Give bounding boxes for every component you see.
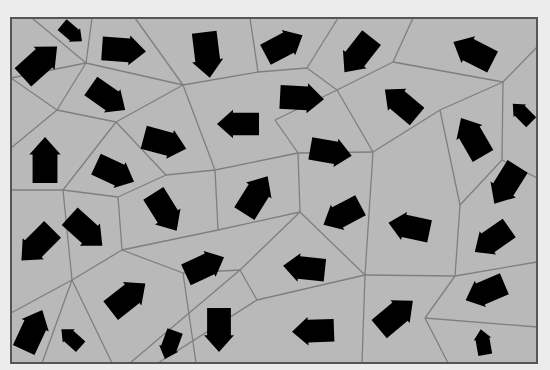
diagram-frame [11, 18, 537, 363]
voronoi-canvas [0, 0, 550, 370]
vector-field-diagram [0, 0, 550, 370]
